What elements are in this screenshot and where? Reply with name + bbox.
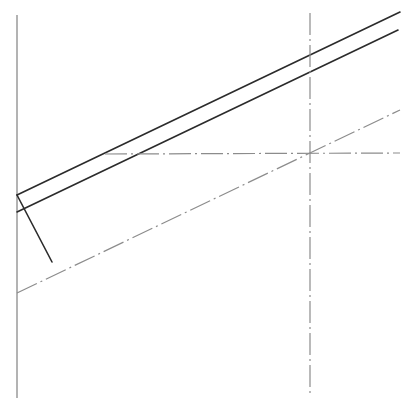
technical-drawing (0, 0, 413, 402)
end-cap-line (17, 195, 52, 262)
horizontal-center-line (105, 153, 400, 154)
diagonal-center-line (17, 110, 400, 293)
lower-edge-line (17, 30, 398, 212)
upper-edge-line (17, 12, 400, 195)
